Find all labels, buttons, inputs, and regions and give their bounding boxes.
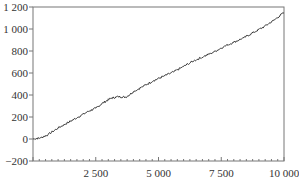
y-tick-label: 400	[12, 89, 29, 101]
x-axis: 2 5005 0007 50010 000	[33, 157, 299, 179]
data-line	[33, 13, 284, 140]
plot-frame	[33, 7, 284, 161]
y-tick-label: 1 000	[3, 23, 28, 35]
x-tick-label: 7 500	[209, 167, 234, 179]
y-tick-label: 200	[12, 111, 29, 123]
y-axis: −20002004006008001 0001 200	[3, 1, 33, 167]
y-tick-label: 800	[12, 45, 29, 57]
y-tick-label: 0	[23, 133, 29, 145]
y-tick-label: 600	[12, 67, 29, 79]
y-tick-label: −200	[5, 155, 28, 167]
x-tick-label: 10 000	[269, 167, 299, 179]
x-tick-label: 2 500	[83, 167, 108, 179]
y-tick-label: 1 200	[3, 1, 28, 13]
line-chart: −20002004006008001 0001 200 2 5005 0007 …	[0, 0, 299, 190]
x-tick-label: 5 000	[146, 167, 171, 179]
